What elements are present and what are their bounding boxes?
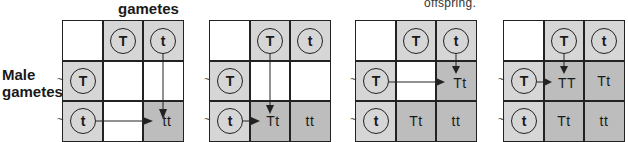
offspring-cell [250,61,290,101]
grid-line [504,60,624,62]
grid-line [210,100,330,102]
grid-line [142,21,144,141]
male-gamete-cell-T: T [356,61,396,101]
squiggle-icon: ~ [204,73,210,85]
female-gamete-cell-T: T [396,21,436,61]
female-gamete-cell-t: t [436,21,476,61]
corner-cell [210,21,250,61]
grid-line [504,100,624,102]
punnett-square-step-4: T t T t TT Tt Tt tt ~ ~ [503,20,625,142]
male-gamete-cell-T: T [63,61,103,101]
female-gamete-cell-t: t [143,21,183,61]
punnett-square-step-2: T t T t Tt tt ~ ~ [209,20,331,142]
punnett-square-step-1: T t T t tt ~ ~ [62,20,184,142]
offspring-cell: tt [436,101,476,141]
caption-fragment: offspring. [424,0,476,10]
squiggle-icon: ~ [57,73,63,85]
offspring-cell: Tt [396,101,436,141]
gamete-circle: T [403,28,429,54]
grid-line [249,21,251,141]
punnett-square-step-3: T t T t Tt Tt tt ~ ~ [355,20,477,142]
male-gamete-cell-T: T [210,61,250,101]
grid-line [210,60,330,62]
offspring-cell: tt [143,101,183,141]
corner-cell [504,21,544,61]
gamete-circle: t [217,108,243,134]
grid-line [289,21,291,141]
squiggle-icon: ~ [350,113,356,125]
grid-line [102,21,104,141]
gamete-circle: t [70,108,96,134]
gamete-circle: t [443,28,469,54]
female-gametes-label: gametes [118,0,179,17]
offspring-cell: Tt [436,61,476,101]
offspring-cell: tt [290,101,330,141]
gamete-circle: t [297,28,323,54]
offspring-cell: TT [544,61,584,101]
male-gamete-cell-t: t [63,101,103,141]
grid-line [63,60,183,62]
male-gamete-cell-t: t [504,101,544,141]
offspring-cell: Tt [544,101,584,141]
male-gametes-label: Male gametes [2,66,63,100]
gamete-circle: T [551,28,577,54]
offspring-cell [290,61,330,101]
squiggle-icon: ~ [498,73,504,85]
female-gamete-cell-T: T [544,21,584,61]
female-gamete-cell-T: T [250,21,290,61]
grid-line [63,100,183,102]
offspring-cell [396,61,436,101]
grid-line [543,21,545,141]
corner-cell [356,21,396,61]
male-gametes-label-line1: Male [2,66,63,83]
offspring-cell: Tt [250,101,290,141]
gamete-circle: T [70,68,96,94]
grid-line [356,60,476,62]
gamete-circle: t [591,28,617,54]
gamete-circle: t [363,108,389,134]
male-gamete-cell-T: T [504,61,544,101]
grid-line [583,21,585,141]
female-gamete-cell-t: t [584,21,624,61]
offspring-cell: tt [584,101,624,141]
squiggle-icon: ~ [498,113,504,125]
squiggle-icon: ~ [350,73,356,85]
gamete-circle: T [217,68,243,94]
grid-line [435,21,437,141]
gamete-circle: t [150,28,176,54]
female-gamete-cell-T: T [103,21,143,61]
offspring-cell: Tt [584,61,624,101]
squiggle-icon: ~ [204,113,210,125]
male-gametes-label-line2: gametes [2,83,63,100]
squiggle-icon: ~ [57,113,63,125]
offspring-cell [143,61,183,101]
male-gamete-cell-t: t [210,101,250,141]
offspring-cell [103,61,143,101]
gamete-circle: T [257,28,283,54]
gamete-circle: T [511,68,537,94]
gamete-circle: T [363,68,389,94]
male-gamete-cell-t: t [356,101,396,141]
female-gamete-cell-t: t [290,21,330,61]
grid-line [356,100,476,102]
offspring-cell [103,101,143,141]
gamete-circle: T [110,28,136,54]
grid-line [395,21,397,141]
gamete-circle: t [511,108,537,134]
corner-cell [63,21,103,61]
